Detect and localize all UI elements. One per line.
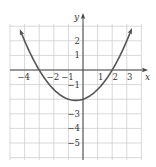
x-tick-label: 1 [98,72,103,82]
x-tick-label: 3 [127,72,132,82]
y-tick-label: −5 [67,138,80,148]
y-tick-label: 1 [75,50,80,60]
y-tick-label: 2 [75,36,80,46]
tick-labels: −4−2−112321−1−3−4−5 [17,36,132,148]
parabola-graph: −4−2−112321−1−3−4−5 x y [0,0,156,167]
x-tick-label: −2 [47,72,60,82]
y-tick-label: −3 [67,109,80,119]
curve-arrowheads [20,28,132,36]
x-tick-label: 2 [112,72,117,82]
y-tick-label: −4 [67,123,80,133]
y-axis-label: y [73,12,80,22]
y-tick-label: −1 [67,80,80,90]
x-tick-label: −4 [17,72,30,82]
x-axis-label: x [145,72,150,82]
